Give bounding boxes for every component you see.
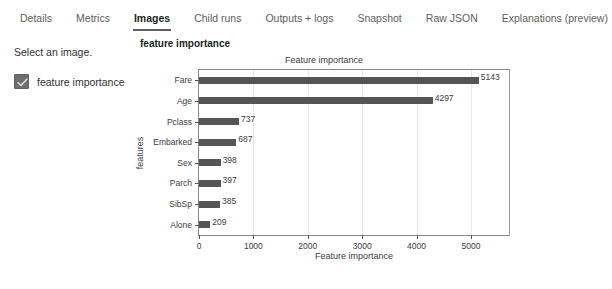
chart-bar xyxy=(199,139,236,146)
chart-bar xyxy=(199,77,479,84)
chart-x-tick-label: 3000 xyxy=(353,241,372,251)
chart-gridline xyxy=(253,70,254,235)
chart-x-tick-label: 0 xyxy=(197,241,202,251)
chart-bar-value-label: 4297 xyxy=(433,93,454,103)
chart-bar xyxy=(199,159,221,166)
chart-y-tick xyxy=(195,183,199,184)
tab-details[interactable]: Details xyxy=(14,12,64,33)
chart-bar xyxy=(199,201,220,208)
chart-y-tick-label: Parch xyxy=(170,178,192,188)
chart-x-tick-label: 5000 xyxy=(461,241,480,251)
chart-y-tick xyxy=(195,142,199,143)
chart-bar xyxy=(199,221,210,228)
chart-y-tick xyxy=(195,204,199,205)
image-list-item-label: feature importance xyxy=(37,76,125,88)
chart-bar-value-label: 737 xyxy=(239,114,255,124)
image-preview-panel: feature importance Feature importance 01… xyxy=(138,30,527,285)
chart-bar-value-label: 385 xyxy=(220,196,236,206)
chart-bar xyxy=(199,118,239,125)
chart-bar xyxy=(199,97,433,104)
chart-y-tick-label: Fare xyxy=(175,75,192,85)
chart-y-tick-label: Sex xyxy=(177,158,192,168)
chart-bar-value-label: 209 xyxy=(210,217,226,227)
chart-y-tick-label: Age xyxy=(177,96,192,106)
chart-bar-value-label: 5143 xyxy=(479,72,500,82)
chart-x-tick xyxy=(199,235,200,239)
image-list-item-feature-importance[interactable]: feature importance xyxy=(14,74,138,89)
chart-x-tick-label: 2000 xyxy=(298,241,317,251)
chart-gridline xyxy=(362,70,363,235)
chart-x-tick xyxy=(253,235,254,239)
chart-gridline xyxy=(417,70,418,235)
chart-gridline xyxy=(471,70,472,235)
chart-y-tick xyxy=(195,122,199,123)
chart-x-tick-label: 1000 xyxy=(244,241,263,251)
chart-gridline xyxy=(308,70,309,235)
chart-plot-area: 0100020003000400050005143Fare4297Age737P… xyxy=(198,69,510,236)
chart-y-axis-title: features xyxy=(135,137,145,170)
image-selection-panel: Select an image. feature importance xyxy=(0,30,138,89)
chart-x-tick xyxy=(308,235,309,239)
chart-y-tick xyxy=(195,101,199,102)
chart-bar-value-label: 397 xyxy=(221,175,237,185)
chart-y-tick xyxy=(195,163,199,164)
chart-x-tick-label: 4000 xyxy=(407,241,426,251)
feature-importance-chart: Feature importance 010002000300040005000… xyxy=(134,55,514,285)
content-area: Select an image. feature importance feat… xyxy=(0,30,527,285)
chart-y-tick-label: SibSp xyxy=(169,199,192,209)
tab-metrics[interactable]: Metrics xyxy=(64,12,122,33)
chart-x-tick xyxy=(417,235,418,239)
tab-bar: DetailsMetricsImagesChild runsOutputs + … xyxy=(0,0,527,30)
chart-y-tick xyxy=(195,80,199,81)
chart-x-axis-title: Feature importance xyxy=(198,251,510,261)
chart-x-tick xyxy=(362,235,363,239)
checkbox-checked-icon[interactable] xyxy=(14,74,29,89)
chart-y-tick xyxy=(195,225,199,226)
chart-bar-value-label: 687 xyxy=(236,134,252,144)
chart-x-tick xyxy=(471,235,472,239)
select-image-label: Select an image. xyxy=(14,46,138,58)
page-title: feature importance xyxy=(140,38,527,49)
chart-title: Feature importance xyxy=(134,55,514,65)
chart-bar-value-label: 398 xyxy=(221,155,237,165)
chart-y-tick-label: Pclass xyxy=(167,117,192,127)
chart-y-tick-label: Embarked xyxy=(153,137,192,147)
chart-y-tick-label: Alone xyxy=(170,220,192,230)
chart-bar xyxy=(199,180,221,187)
